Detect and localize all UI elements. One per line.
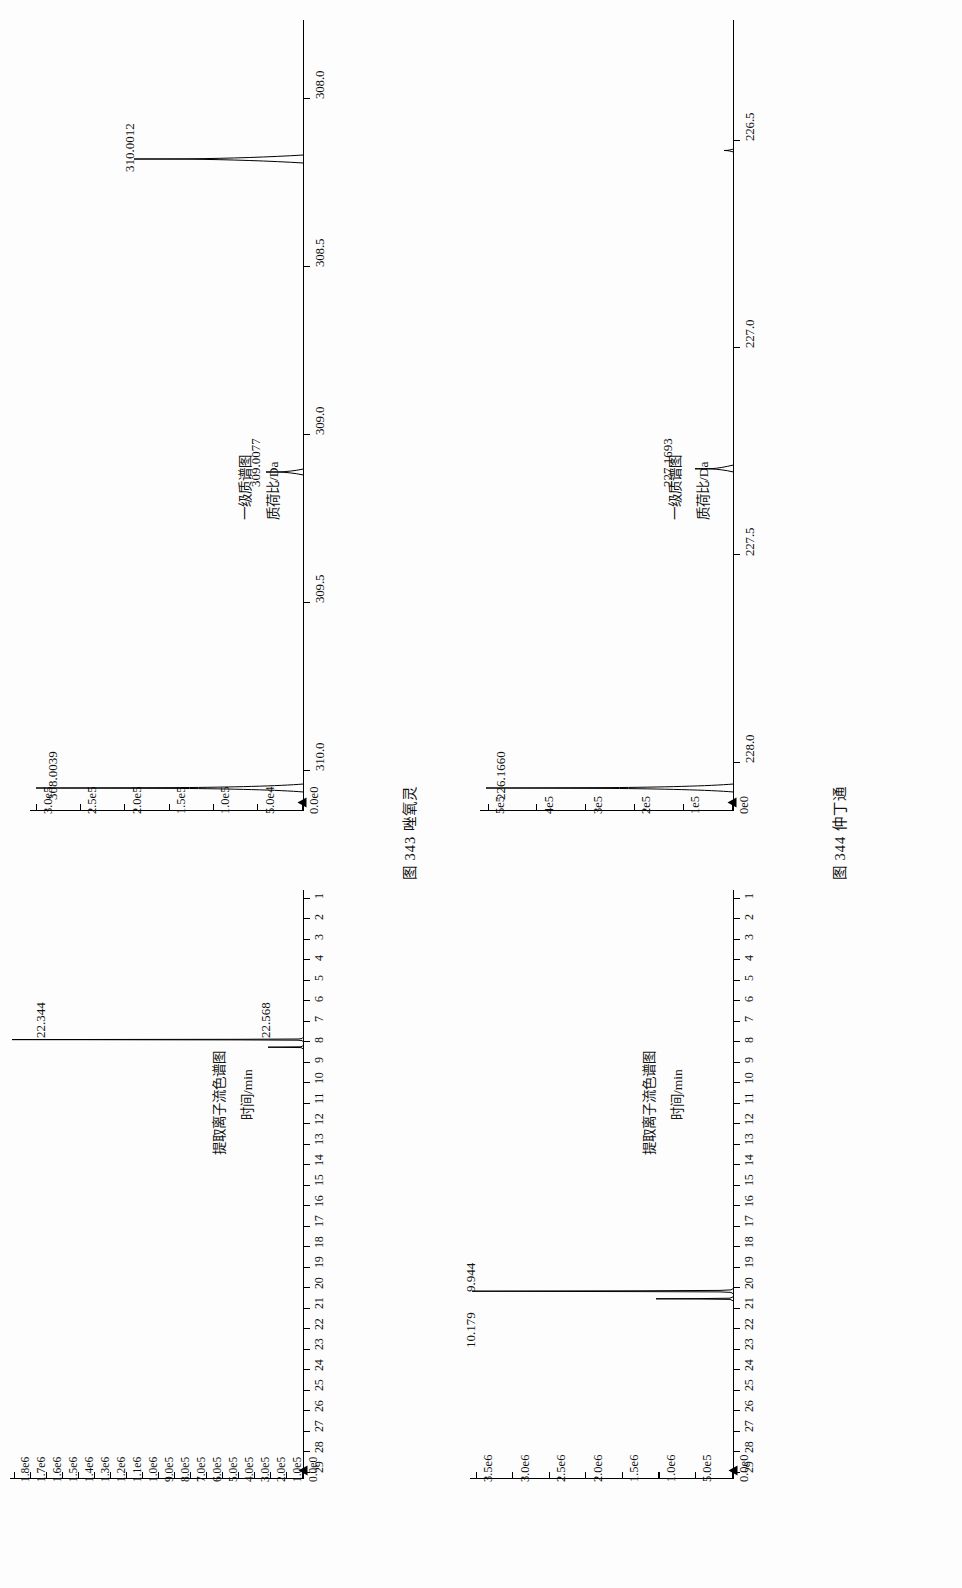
axis-tick bbox=[304, 1410, 310, 1411]
axis-tick-label: 28 bbox=[312, 1441, 327, 1453]
axis-tick bbox=[304, 1349, 310, 1350]
axis-tick-label: 8 bbox=[742, 1037, 757, 1043]
axis-tick bbox=[734, 1451, 740, 1452]
axis-tick bbox=[304, 602, 310, 603]
fig344-ms-origin-arrow bbox=[728, 798, 737, 808]
axis-tick bbox=[734, 1144, 740, 1145]
axis-tick bbox=[734, 1185, 740, 1186]
axis-tick bbox=[304, 1390, 310, 1391]
axis-tick-label: 2 bbox=[312, 914, 327, 920]
fig343-ms-plot: 308.0308.5309.0309.5310.0 0.0e05.0e41.0e… bbox=[0, 0, 330, 880]
axis-tick-label: 26 bbox=[312, 1400, 327, 1412]
axis-tick bbox=[304, 1062, 310, 1063]
axis-tick-label: 5 bbox=[742, 975, 757, 981]
axis-tick-label: 20 bbox=[312, 1277, 327, 1289]
axis-tick-label: 310.0 bbox=[312, 743, 328, 771]
axis-tick-label: 18 bbox=[312, 1236, 327, 1248]
axis-tick bbox=[304, 266, 310, 267]
fig343-ms-peak-label-2: 309.0077 bbox=[248, 438, 264, 487]
axis-tick bbox=[304, 939, 310, 940]
fig344-eic-title: 提取离子流色谱图 bbox=[638, 1051, 658, 1155]
fig344-eic-peak-label-1: 9.944 bbox=[463, 1263, 479, 1292]
axis-tick-label: 25 bbox=[312, 1379, 327, 1391]
axis-tick-label: 1 bbox=[742, 893, 757, 899]
axis-tick-label: 5 bbox=[312, 975, 327, 981]
axis-tick bbox=[304, 1185, 310, 1186]
axis-tick-label: 11 bbox=[742, 1093, 757, 1104]
axis-tick bbox=[734, 1041, 740, 1042]
axis-tick bbox=[734, 980, 740, 981]
axis-tick bbox=[304, 1267, 310, 1268]
axis-tick bbox=[734, 1246, 740, 1247]
axis-tick-label: 228.0 bbox=[742, 735, 758, 763]
axis-tick bbox=[734, 1082, 740, 1083]
axis-tick-label: 8 bbox=[312, 1037, 327, 1043]
axis-tick-label: 13 bbox=[742, 1133, 757, 1145]
axis-tick bbox=[734, 1431, 740, 1432]
fig343-eic-peak-label-1: 22.344 bbox=[33, 1002, 49, 1038]
fig344-ms-trace bbox=[480, 20, 734, 810]
axis-tick-label: 308.5 bbox=[312, 239, 328, 267]
axis-tick-label: 227.0 bbox=[742, 320, 758, 348]
axis-tick bbox=[304, 1205, 310, 1206]
axis-tick bbox=[304, 434, 310, 435]
axis-tick-label: 19 bbox=[312, 1256, 327, 1268]
figure-344-caption: 图 344 仲丁通 bbox=[828, 786, 849, 880]
axis-tick-label: 308.0 bbox=[312, 71, 328, 99]
axis-tick-label: 23 bbox=[312, 1338, 327, 1350]
axis-tick-label: 18 bbox=[742, 1236, 757, 1248]
axis-tick-label: 309.5 bbox=[312, 575, 328, 603]
fig344-ms-panel: 226.5227.0227.5228.0 0e01e52e53e54e55e5 … bbox=[430, 0, 760, 880]
axis-tick-label: 14 bbox=[312, 1154, 327, 1166]
axis-tick-label: 16 bbox=[312, 1195, 327, 1207]
axis-tick-label: 7 bbox=[312, 1016, 327, 1022]
fig344-eic-xlabel: 时间/min bbox=[666, 1069, 686, 1120]
axis-tick bbox=[304, 1123, 310, 1124]
axis-tick bbox=[304, 1431, 310, 1432]
axis-tick-label: 9 bbox=[312, 1057, 327, 1063]
axis-tick bbox=[734, 939, 740, 940]
axis-tick bbox=[734, 1164, 740, 1165]
axis-tick-label: 28 bbox=[742, 1441, 757, 1453]
fig343-eic-origin-arrow bbox=[299, 1466, 308, 1476]
fig343-eic-title: 提取离子流色谱图 bbox=[208, 1051, 228, 1155]
fig344-eic-trace bbox=[470, 890, 734, 1478]
axis-tick bbox=[304, 1287, 310, 1288]
axis-tick-label: 0.0e0 bbox=[307, 787, 322, 814]
axis-tick-label: 1 bbox=[312, 893, 327, 899]
axis-tick-label: 22 bbox=[312, 1318, 327, 1330]
axis-tick bbox=[304, 918, 310, 919]
axis-tick bbox=[304, 770, 310, 771]
figure-343-caption: 图 343 唑氧灵 bbox=[398, 786, 419, 880]
fig344-eic-origin-arrow bbox=[729, 1466, 738, 1476]
axis-tick-label: 4 bbox=[742, 955, 757, 961]
axis-tick bbox=[304, 959, 310, 960]
axis-tick bbox=[734, 1287, 740, 1288]
axis-tick-label: 2 bbox=[742, 914, 757, 920]
fig343-ms-origin-arrow bbox=[298, 798, 307, 808]
axis-tick bbox=[734, 1205, 740, 1206]
axis-tick-label: 6 bbox=[312, 996, 327, 1002]
axis-tick-label: 24 bbox=[312, 1359, 327, 1371]
axis-tick bbox=[304, 1328, 310, 1329]
axis-tick bbox=[734, 762, 740, 763]
axis-tick bbox=[304, 1226, 310, 1227]
fig343-ms-trace bbox=[30, 20, 304, 810]
fig344-ms-peak-label-2: 227.1693 bbox=[660, 438, 676, 487]
axis-tick-label: 21 bbox=[312, 1297, 327, 1309]
axis-tick-label: 4 bbox=[312, 955, 327, 961]
axis-tick bbox=[304, 1246, 310, 1247]
axis-tick bbox=[734, 918, 740, 919]
axis-tick-label: 11 bbox=[312, 1093, 327, 1104]
axis-tick bbox=[734, 1390, 740, 1391]
axis-tick bbox=[304, 1164, 310, 1165]
fig343-ms-peak-label-1: 308.0039 bbox=[45, 751, 61, 800]
fig343-ms-xlabel: 质荷比/Da bbox=[262, 462, 282, 521]
axis-tick-label: 21 bbox=[742, 1297, 757, 1309]
axis-tick-label: 9 bbox=[742, 1057, 757, 1063]
axis-tick bbox=[734, 1308, 740, 1309]
axis-tick bbox=[304, 1021, 310, 1022]
axis-tick-label: 19 bbox=[742, 1256, 757, 1268]
axis-tick-label: 15 bbox=[312, 1174, 327, 1186]
axis-tick-label: 25 bbox=[742, 1379, 757, 1391]
